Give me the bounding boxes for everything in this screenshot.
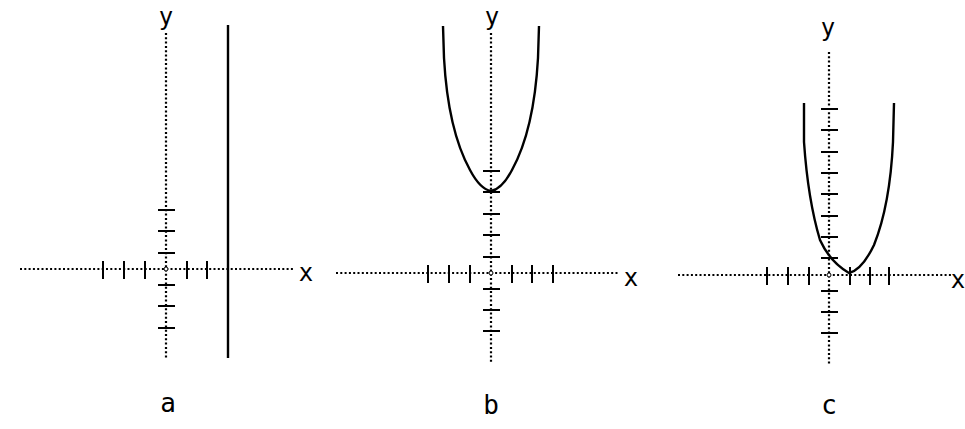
y-ticks <box>483 171 500 331</box>
panel-b-x-label: x <box>624 266 638 290</box>
panel-b-y-label: y <box>485 5 499 29</box>
panel-c-x-label: x <box>951 268 965 292</box>
origin-marker <box>164 267 168 271</box>
panel-a <box>20 25 295 358</box>
panel-a-caption: a <box>160 390 176 416</box>
panel-b <box>336 26 618 362</box>
graph-parabola <box>804 103 894 273</box>
panel-c-caption: c <box>821 392 837 418</box>
panel-c <box>678 52 952 365</box>
panel-a-y-label: y <box>159 5 173 29</box>
panel-b-caption: b <box>483 392 499 418</box>
origin-marker <box>489 271 493 275</box>
panel-a-x-label: x <box>299 261 313 285</box>
panel-c-y-label: y <box>821 16 835 40</box>
origin-marker <box>827 273 831 277</box>
